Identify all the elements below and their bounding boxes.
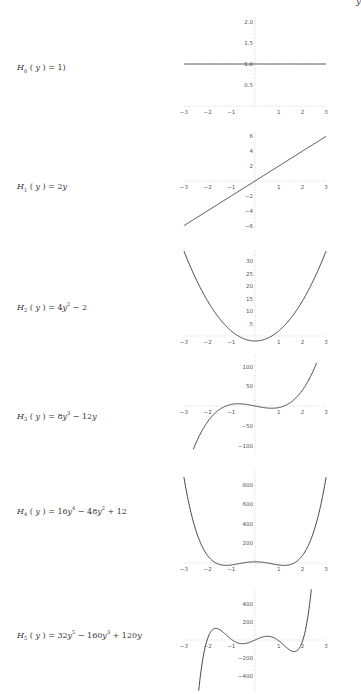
x-tick-label: −3 xyxy=(180,409,189,415)
y-tick-label: 4 xyxy=(250,148,254,154)
y-tick-label: 2 xyxy=(250,163,254,169)
y-tick-label: 6 xyxy=(250,133,254,139)
x-tick-label: −1 xyxy=(227,566,235,572)
x-tick-label: −1 xyxy=(227,109,235,115)
x-tick-label: −3 xyxy=(180,566,189,572)
x-tick-label: 3 xyxy=(324,109,328,115)
x-tick-label: −2 xyxy=(204,409,212,415)
x-tick-label: 2 xyxy=(301,566,305,572)
y-tick-label: 400 xyxy=(243,521,254,527)
y-tick-label: 400 xyxy=(243,601,254,607)
x-tick-label: 3 xyxy=(324,339,328,345)
x-tick-label: −2 xyxy=(204,184,212,190)
y-tick-label: −4 xyxy=(245,208,254,214)
plot-1: −3−2−1123−6−4−2246 xyxy=(180,132,329,230)
y-tick-label: 5 xyxy=(250,321,254,327)
plot-0: −3−2−11230.51.01.52.0 xyxy=(180,18,329,115)
x-tick-label: −2 xyxy=(204,339,212,345)
x-tick-label: 3 xyxy=(324,566,328,572)
y-tick-label: −2 xyxy=(245,193,253,199)
y-tick-label: 1.5 xyxy=(244,40,253,46)
x-tick-label: −1 xyxy=(227,409,235,415)
x-tick-label: 2 xyxy=(301,184,305,190)
x-tick-label: −3 xyxy=(180,339,189,345)
x-tick-label: 1 xyxy=(277,109,281,115)
y-tick-label: 600 xyxy=(243,501,254,507)
x-tick-label: −1 xyxy=(227,339,235,345)
x-tick-label: −2 xyxy=(204,109,212,115)
x-tick-label: 3 xyxy=(324,643,328,649)
plot-3: −3−2−1123−100−5050100 xyxy=(180,355,329,455)
y-tick-label: −400 xyxy=(238,673,254,679)
y-tick-label: 20 xyxy=(246,283,253,289)
y-tick-label: 0.5 xyxy=(244,82,253,88)
y-tick-label: 15 xyxy=(246,296,253,302)
y-tick-label: 2.0 xyxy=(244,19,253,25)
x-tick-label: 1 xyxy=(277,409,281,415)
x-tick-label: −2 xyxy=(204,566,212,572)
x-tick-label: 1 xyxy=(277,643,281,649)
x-tick-label: −1 xyxy=(227,643,235,649)
x-tick-label: 2 xyxy=(301,409,305,415)
y-tick-label: 30 xyxy=(246,258,253,264)
plot-2: −3−2−112351015202530 xyxy=(180,250,329,345)
x-tick-label: 1 xyxy=(277,184,281,190)
plot-4: −3−2−1123200400600800 xyxy=(180,470,329,572)
x-tick-label: 1 xyxy=(277,566,281,572)
y-tick-label: −200 xyxy=(238,655,254,661)
y-tick-label: −100 xyxy=(238,443,254,449)
x-tick-label: −3 xyxy=(180,109,189,115)
y-tick-label: 200 xyxy=(243,619,254,625)
x-tick-label: 2 xyxy=(301,339,305,345)
x-tick-label: 1 xyxy=(277,339,281,345)
y-tick-label: −50 xyxy=(241,423,253,429)
x-tick-label: −3 xyxy=(180,643,189,649)
x-tick-label: −3 xyxy=(180,184,189,190)
y-tick-label: 100 xyxy=(243,364,254,370)
x-tick-label: 3 xyxy=(324,184,328,190)
y-tick-label: 800 xyxy=(243,482,254,488)
x-tick-label: 3 xyxy=(324,409,328,415)
y-tick-label: 25 xyxy=(246,271,253,277)
plot-5: −3−2−1123−400−200200400 xyxy=(180,589,329,692)
y-tick-label: 10 xyxy=(246,308,253,314)
y-tick-label: 50 xyxy=(246,383,253,389)
x-tick-label: −1 xyxy=(227,184,235,190)
y-tick-label: −6 xyxy=(245,223,254,229)
x-tick-label: 2 xyxy=(301,109,305,115)
y-tick-label: 200 xyxy=(243,540,254,546)
